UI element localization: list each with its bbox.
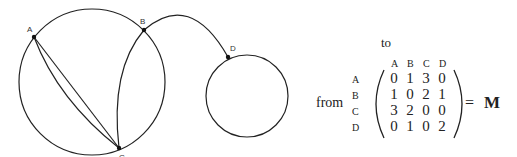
cell-d-b: 1	[403, 118, 417, 135]
row-header-a: A	[352, 74, 359, 85]
matrix-parentheses	[362, 68, 472, 140]
cell-c-a: 3	[387, 102, 401, 119]
cell-c-d: 0	[435, 102, 449, 119]
to-label: to	[381, 35, 391, 51]
cell-c-b: 2	[403, 102, 417, 119]
equals-sign: =	[465, 94, 474, 112]
node-c	[117, 146, 121, 150]
edge-b-d	[144, 15, 228, 57]
cell-c-c: 0	[419, 102, 433, 119]
cell-a-d: 0	[435, 70, 449, 87]
matrix-name: M	[484, 93, 500, 113]
node-d	[226, 55, 230, 59]
cell-a-a: 0	[387, 70, 401, 87]
cell-d-d: 2	[435, 118, 449, 135]
node-label-b: B	[140, 17, 145, 26]
loop-d	[206, 55, 288, 137]
cell-b-b: 0	[403, 86, 417, 103]
from-label: from	[316, 95, 343, 111]
cell-b-d: 1	[435, 86, 449, 103]
node-label-a: A	[27, 25, 33, 34]
cell-d-c: 0	[419, 118, 433, 135]
node-b	[142, 28, 146, 32]
row-header-c: C	[352, 106, 359, 117]
node-a	[32, 35, 36, 39]
cell-b-c: 2	[419, 86, 433, 103]
cell-b-a: 1	[387, 86, 401, 103]
multigraph-diagram: A B C D	[0, 0, 300, 157]
node-label-c: C	[119, 153, 125, 157]
edge-a-c-straight	[34, 37, 119, 148]
edge-b-c-curve	[117, 30, 144, 148]
row-header-d: D	[352, 122, 359, 133]
node-label-d: D	[230, 44, 236, 53]
row-header-b: B	[352, 90, 359, 101]
cell-d-a: 0	[387, 118, 401, 135]
cell-a-b: 1	[403, 70, 417, 87]
cell-a-c: 3	[419, 70, 433, 87]
